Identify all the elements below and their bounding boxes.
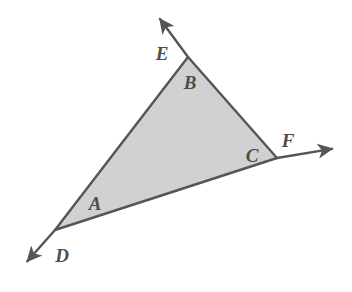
exterior-angle-label-e: E <box>156 44 169 63</box>
triangle-diagram-svg <box>0 0 352 292</box>
interior-angle-label-c: C <box>246 146 259 165</box>
interior-angle-label-a: A <box>89 194 102 213</box>
exterior-angle-label-d: D <box>55 246 69 265</box>
geometry-figure: A B C D E F <box>0 0 352 292</box>
exterior-angle-label-f: F <box>282 131 295 150</box>
ray-d-arrow <box>27 230 55 261</box>
interior-angle-label-b: B <box>184 73 197 92</box>
